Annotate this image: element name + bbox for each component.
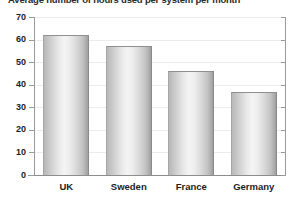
- bar-series: [0, 0, 300, 206]
- bar-chart: Average number of hours used per system …: [0, 0, 300, 206]
- x-axis-label-germany: Germany: [216, 181, 292, 192]
- bar-germany: [231, 92, 277, 176]
- bar-uk: [43, 35, 89, 175]
- bar-france: [168, 71, 214, 175]
- bar-sweden: [106, 46, 152, 175]
